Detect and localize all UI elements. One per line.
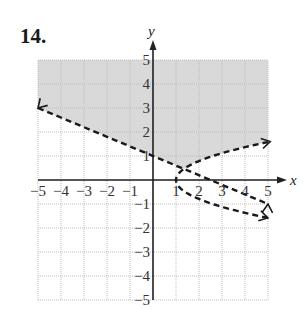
x-tick-label: −5 [30,183,46,199]
y-tick-label: −4 [134,268,150,284]
x-tick-label: 1 [172,183,180,199]
x-tick-label: −4 [53,183,69,199]
y-tick-label: −1 [134,196,150,212]
y-tick-label: −3 [134,244,150,260]
graph: xy −5−4−3−2−11234554321−1−2−3−4−5 [0,0,306,309]
x-tick-label: 5 [264,183,272,199]
y-axis-arrow-icon [150,40,157,50]
x-tick-label: −2 [99,183,115,199]
x-axis-arrow-icon [277,177,287,184]
x-tick-label: 2 [195,183,203,199]
y-tick-label: 2 [143,124,151,140]
y-tick-label: 1 [143,148,151,164]
x-axis-label: x [289,172,297,188]
y-tick-label: −5 [134,292,150,308]
arrowhead-icon [262,204,272,213]
y-axis-label: y [146,23,155,39]
y-tick-label: 4 [143,76,151,92]
x-tick-label: −3 [76,183,92,199]
y-tick-label: 5 [143,52,151,68]
y-tick-label: 3 [143,100,151,116]
x-tick-label: 4 [241,183,249,199]
y-tick-label: −2 [134,220,150,236]
x-tick-label: 3 [218,183,226,199]
